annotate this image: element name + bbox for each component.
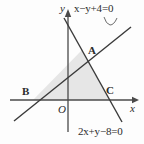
leader-line-top-equation bbox=[104, 17, 117, 25]
vertex-label-c: C bbox=[106, 85, 114, 96]
vertex-label-b: B bbox=[22, 86, 29, 97]
equation-label-line1: x−y+4=0 bbox=[74, 3, 113, 14]
geometry-figure: x−y+4=0 2x+y−8=0 A B C y x O bbox=[0, 0, 144, 144]
figure-canvas bbox=[0, 0, 144, 144]
vertex-label-a: A bbox=[88, 45, 96, 56]
equation-label-line2: 2x+y−8=0 bbox=[78, 126, 123, 137]
x-axis-label: x bbox=[130, 103, 135, 114]
y-axis-label: y bbox=[60, 3, 65, 14]
origin-label: O bbox=[58, 104, 66, 115]
